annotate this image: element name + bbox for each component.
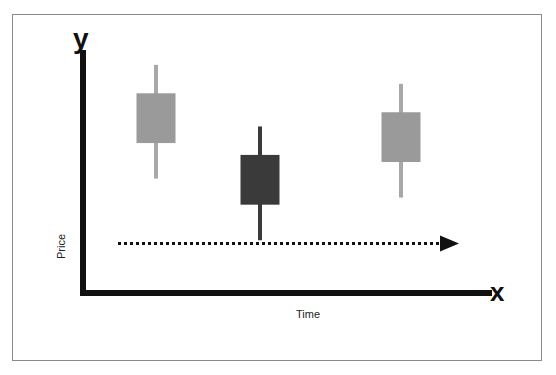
y-axis-title: Price — [55, 234, 67, 259]
candle-2-body — [241, 155, 280, 205]
candle-1-body — [137, 93, 176, 143]
x-axis-letter: x — [490, 277, 505, 307]
candle-3-body — [382, 112, 421, 162]
arrow-head-icon — [440, 236, 459, 252]
time-arrow — [118, 236, 459, 252]
x-axis-title: Time — [296, 308, 320, 320]
candles-group — [137, 65, 421, 240]
y-axis-letter: y — [73, 23, 89, 54]
candlestick-chart: y x Time Price — [0, 0, 556, 375]
